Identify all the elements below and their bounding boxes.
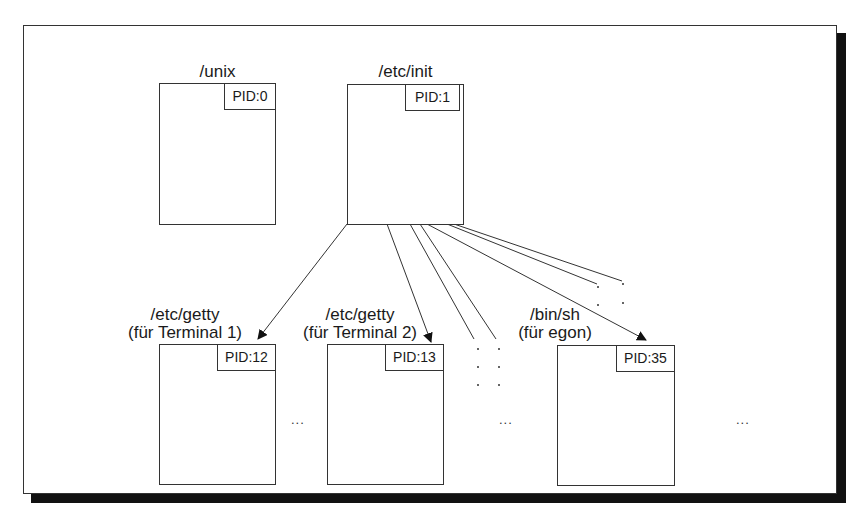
edge-init-more-4 xyxy=(454,224,622,281)
process-label-getty2: /etc/getty (für Terminal 2) xyxy=(290,306,430,342)
process-box-getty2: PID:13 xyxy=(327,344,444,485)
edge-init-more-2 xyxy=(420,224,496,339)
edge-init-more-3 xyxy=(447,224,597,284)
pid-tag: PID:0 xyxy=(224,83,276,110)
process-note: (für Terminal 2) xyxy=(290,324,430,342)
pid-tag: PID:35 xyxy=(616,345,675,372)
process-note: (für Terminal 1) xyxy=(115,324,255,342)
ellipsis-more-processes: ... xyxy=(291,412,305,427)
process-box-getty1: PID:12 xyxy=(159,344,276,485)
process-name: /bin/sh xyxy=(505,306,605,324)
ellipsis-more-processes: ... xyxy=(499,412,513,427)
pid-tag: PID:13 xyxy=(385,344,444,371)
process-name: /etc/getty xyxy=(115,306,255,324)
pid-tag: PID:1 xyxy=(405,84,460,111)
process-label-sh: /bin/sh (für egon) xyxy=(505,306,605,342)
process-note: (für egon) xyxy=(505,324,605,342)
pid-tag: PID:12 xyxy=(217,344,276,371)
process-box-unix: PID:0 xyxy=(159,83,276,225)
process-label-unix: /unix xyxy=(159,63,276,81)
process-name: /etc/getty xyxy=(290,306,430,324)
process-box-sh: PID:35 xyxy=(557,345,675,486)
process-box-init: PID:1 xyxy=(347,84,464,225)
process-label-init: /etc/init xyxy=(347,63,464,81)
process-label-getty1: /etc/getty (für Terminal 1) xyxy=(115,306,255,342)
ellipsis-more-processes: ... xyxy=(736,412,750,427)
